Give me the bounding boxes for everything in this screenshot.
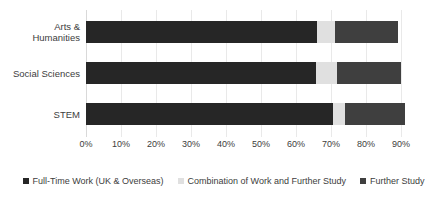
x-tick-label: 70% xyxy=(311,139,351,149)
bar-row xyxy=(86,103,401,125)
x-tick-label: 0% xyxy=(66,139,106,149)
category-label: Social Sciences xyxy=(0,68,80,79)
legend-item[interactable]: Full-Time Work (UK & Overseas) xyxy=(23,176,164,186)
category-label: Arts & Humanities xyxy=(0,21,80,43)
bar-row xyxy=(86,21,401,43)
x-tick-label: 20% xyxy=(136,139,176,149)
legend-swatch-icon xyxy=(360,178,366,184)
bar-segment xyxy=(86,62,316,84)
bar-row xyxy=(86,62,401,84)
x-tick-label: 80% xyxy=(346,139,386,149)
legend-label: Further Study xyxy=(370,176,425,186)
x-tick-label: 10% xyxy=(101,139,141,149)
legend-swatch-icon xyxy=(23,178,29,184)
x-axis-tick-labels: 0%10%20%30%40%50%60%70%80%90% xyxy=(86,139,401,153)
legend-label: Combination of Work and Further Study xyxy=(188,176,346,186)
x-tick-label: 30% xyxy=(171,139,211,149)
legend-item[interactable]: Further Study xyxy=(360,176,425,186)
bar-segment xyxy=(337,62,401,84)
bar-segment xyxy=(317,21,335,43)
bar-segment xyxy=(86,21,317,43)
plot-area xyxy=(86,10,401,137)
legend-swatch-icon xyxy=(178,178,184,184)
x-tick-label: 90% xyxy=(381,139,421,149)
x-tick-label: 50% xyxy=(241,139,281,149)
stacked-bar-chart: Arts & HumanitiesSocial SciencesSTEM 0%1… xyxy=(0,0,447,204)
chart-legend: Full-Time Work (UK & Overseas)Combinatio… xyxy=(0,173,447,189)
bar-segment xyxy=(345,103,405,125)
bar-segment xyxy=(316,62,337,84)
bar-segment xyxy=(86,103,333,125)
bar-segment xyxy=(335,21,398,43)
category-label: STEM xyxy=(0,109,80,120)
legend-item[interactable]: Combination of Work and Further Study xyxy=(178,176,346,186)
legend-label: Full-Time Work (UK & Overseas) xyxy=(33,176,164,186)
x-tick-label: 60% xyxy=(276,139,316,149)
bar-segment xyxy=(333,103,345,125)
x-tick-label: 40% xyxy=(206,139,246,149)
category-axis-labels: Arts & HumanitiesSocial SciencesSTEM xyxy=(0,10,80,137)
